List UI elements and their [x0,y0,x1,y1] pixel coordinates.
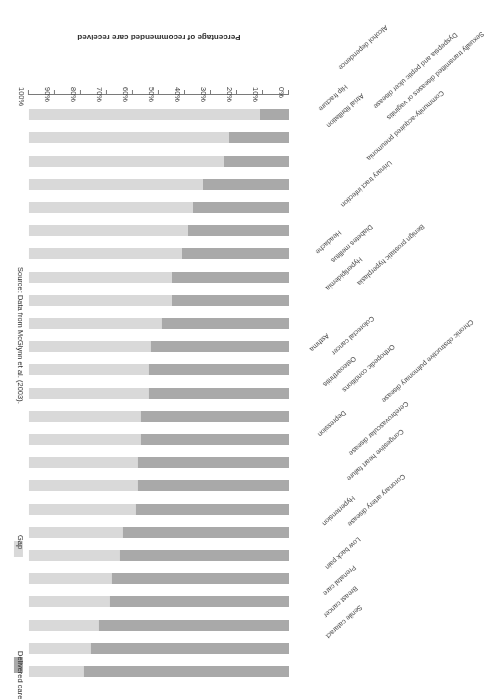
bar-segment-gap [29,457,138,468]
bar-row [29,573,289,584]
bar-row [29,179,289,190]
x-axis-tick [132,90,133,95]
bar-segment-gap [29,132,229,143]
x-axis-tick [184,90,185,95]
x-axis-tick [106,90,107,95]
category-label: Orthopedic conditions [341,343,396,394]
bar-segment-delivered-care [99,620,289,631]
bar-segment-delivered-care [149,388,289,399]
bar-row [29,132,289,143]
bar-row [29,318,289,329]
bar-segment-delivered-care [229,132,289,143]
bar-segment-gap [29,272,172,283]
x-axis-tick [262,90,263,95]
bar-row [29,411,289,422]
bar-segment-gap [29,225,188,236]
bar-segment-gap [29,434,141,445]
category-label: Colorectal cancer [331,315,376,357]
bar-segment-gap [29,480,138,491]
bar-segment-gap [29,596,110,607]
category-label: Sexually transmitted diseases or vaginit… [386,31,486,122]
bar-segment-gap [29,643,91,654]
bar-segment-delivered-care [84,666,289,677]
bar-segment-gap [29,109,260,120]
bar-segment-gap [29,156,224,167]
x-axis-tick [80,90,81,95]
bar-segment-gap [29,550,120,561]
bar-segment-delivered-care [162,318,289,329]
category-label: Asthma [308,333,330,354]
bar-segment-delivered-care [260,109,289,120]
x-axis-tick [28,90,29,95]
bar-segment-delivered-care [141,411,289,422]
bar-row [29,457,289,468]
bar-row [29,527,289,538]
bar-segment-gap [29,179,203,190]
category-label: Low back pain [324,536,362,571]
x-axis-tick-label: 90% [43,87,52,102]
x-axis-tick [158,90,159,95]
bar-segment-delivered-care [123,527,289,538]
bar-segment-delivered-care [224,156,289,167]
bar-segment-delivered-care [151,341,289,352]
bar-row [29,202,289,213]
x-axis-tick-label: 0% [277,87,286,98]
bar-segment-gap [29,573,112,584]
bar-segment-delivered-care [149,364,289,375]
legend-item: Delivered care [0,587,27,673]
bar-segment-delivered-care [112,573,289,584]
bar-segment-gap [29,504,136,515]
category-label: Alcohol dependence [338,24,390,72]
legend-label: Gap [16,535,25,549]
x-axis-tick-label: 30% [199,87,208,102]
bar-segment-gap [29,295,172,306]
bar-row [29,480,289,491]
bar-segment-delivered-care [138,457,289,468]
bar-segment-gap [29,364,149,375]
x-axis-tick-label: 40% [173,87,182,102]
bar-segment-delivered-care [172,272,289,283]
legend-item: Gap [0,471,27,557]
x-axis-tick-label: 20% [225,87,234,102]
category-label: Depression [317,410,348,439]
bar-segment-gap [29,388,149,399]
bar-row [29,295,289,306]
bar-segment-gap [29,620,99,631]
legend-label: Delivered care [16,651,25,699]
x-axis-tick [288,90,289,95]
x-axis-tick-label: 100% [17,87,26,106]
x-axis-tick-label: 60% [121,87,130,102]
bar-segment-delivered-care [136,504,289,515]
x-axis-tick-label: 10% [251,87,260,102]
x-axis-tick [236,90,237,95]
bar-segment-delivered-care [91,643,289,654]
bar-segment-delivered-care [203,179,289,190]
bar-row [29,272,289,283]
bar-segment-delivered-care [193,202,289,213]
bar-row [29,388,289,399]
x-axis-tick-label: 70% [95,87,104,102]
bar-segment-delivered-care [188,225,289,236]
bar-row [29,156,289,167]
bar-row [29,434,289,445]
bar-segment-delivered-care [182,248,289,259]
bar-segment-gap [29,318,162,329]
bar-row [29,341,289,352]
bar-segment-gap [29,411,141,422]
bar-row [29,666,289,677]
bar-segment-gap [29,341,151,352]
x-axis-tick [210,90,211,95]
bar-row [29,364,289,375]
bar-segment-delivered-care [138,480,289,491]
chart-legend: Delivered careGap [0,441,27,673]
bar-row [29,109,289,120]
source-note: Source: Data from McGlynn et al. (2003). [16,267,25,404]
bar-segment-delivered-care [141,434,289,445]
x-axis-tick-label: 50% [147,87,156,102]
bar-row [29,248,289,259]
bar-row [29,643,289,654]
bar-row [29,504,289,515]
plot-area [29,95,289,679]
